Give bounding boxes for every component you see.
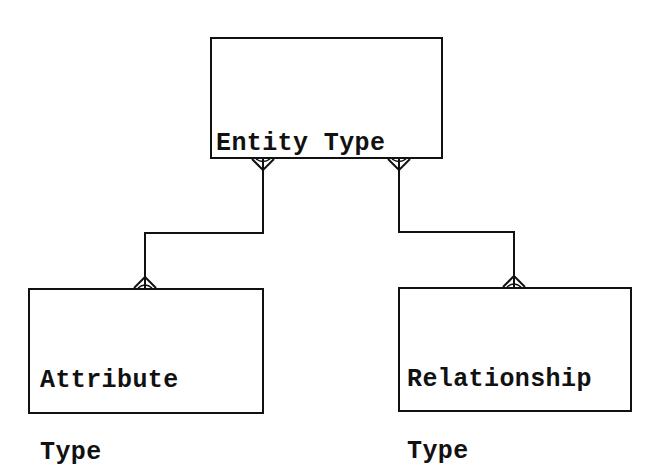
entity-label-line: Entity Type bbox=[216, 132, 385, 156]
entity-label-relationship-type: Relationship Type bbox=[407, 320, 592, 468]
entity-label-line: Type bbox=[407, 440, 592, 464]
entity-label-line: Type bbox=[40, 441, 179, 465]
connector-entity-relationship[interactable] bbox=[399, 159, 514, 287]
entity-label-line: Relationship bbox=[407, 368, 592, 392]
entity-label-attribute-type: Attribute Type bbox=[40, 321, 179, 468]
entity-label-line: Attribute bbox=[40, 369, 179, 393]
entity-label-entity-type: Entity Type bbox=[216, 84, 385, 204]
